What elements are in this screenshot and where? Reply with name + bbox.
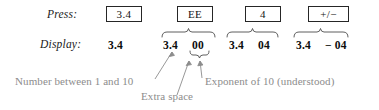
brace-over-step-3 [227,29,278,38]
key-3-4[interactable]: 3.4 [106,6,142,22]
display-step-2-mantissa: 3.4 [163,39,178,51]
press-row-label: Press: [47,8,77,20]
display-step-4-mantissa: 3.4 [296,39,311,51]
leader-extra-space-arrowhead [186,61,191,66]
display-step-3-exponent: 04 [258,39,270,51]
display-row-label: Display: [40,38,81,50]
brace-over-step-4 [294,29,348,38]
leader-mantissa-arrowhead [169,52,174,57]
leader-mantissa [155,52,172,79]
key-4[interactable]: 4 [245,6,281,22]
scientific-notation-figure: Press: Display: 3.4 EE 4 +/− 3.4 3.4 00 … [0,0,379,110]
brace-over-step-2 [162,29,215,38]
display-step-1-mantissa: 3.4 [108,39,123,51]
display-step-3-mantissa: 3.4 [229,39,244,51]
key-ee[interactable]: EE [177,6,213,22]
leader-exponent-arrowhead [198,61,203,66]
display-step-2-exponent: 00 [192,39,204,51]
leader-exponent [200,61,202,78]
annotation-exponent: Exponent of 10 (understood) [205,75,334,87]
key-sign[interactable]: +/− [308,6,349,22]
annotation-extra-space: Extra space [141,90,193,102]
brace-under-exponent [190,51,209,58]
display-step-4-exponent: − 04 [325,39,347,51]
annotation-mantissa: Number between 1 and 10 [15,75,133,87]
